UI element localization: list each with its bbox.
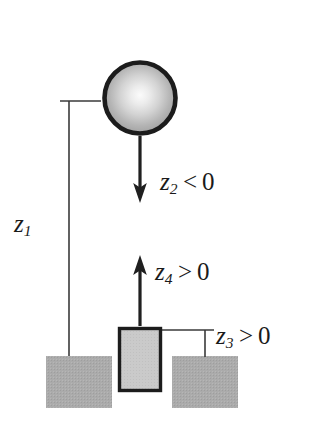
label-z3: z3>0 xyxy=(216,323,271,351)
label-z3-value: 0 xyxy=(256,322,271,349)
label-z4-value: 0 xyxy=(195,258,210,285)
hanging-block xyxy=(120,329,161,391)
label-z2-value: 0 xyxy=(200,168,215,195)
label-z3-relation: > xyxy=(233,322,255,349)
label-z2-var: z xyxy=(160,168,170,195)
label-z1: z1 xyxy=(14,211,31,239)
label-z1-sub: 1 xyxy=(24,222,32,239)
label-z4-relation: > xyxy=(172,258,194,285)
arrow-z4-up xyxy=(133,255,147,326)
pulley-diagram-figure: z1 z2<0 z4>0 z3>0 xyxy=(0,0,311,424)
dimension-line-z3 xyxy=(159,330,214,357)
pulley-wheel xyxy=(105,63,176,134)
label-z2: z2<0 xyxy=(160,169,215,197)
dimension-line-z1 xyxy=(51,101,101,357)
arrow-z2-down xyxy=(133,136,147,203)
label-z1-var: z xyxy=(14,210,24,237)
diagram-canvas xyxy=(0,0,311,424)
label-z4-var: z xyxy=(155,258,165,285)
label-z4: z4>0 xyxy=(155,259,210,287)
label-z3-var: z xyxy=(216,322,226,349)
label-z2-relation: < xyxy=(177,168,199,195)
